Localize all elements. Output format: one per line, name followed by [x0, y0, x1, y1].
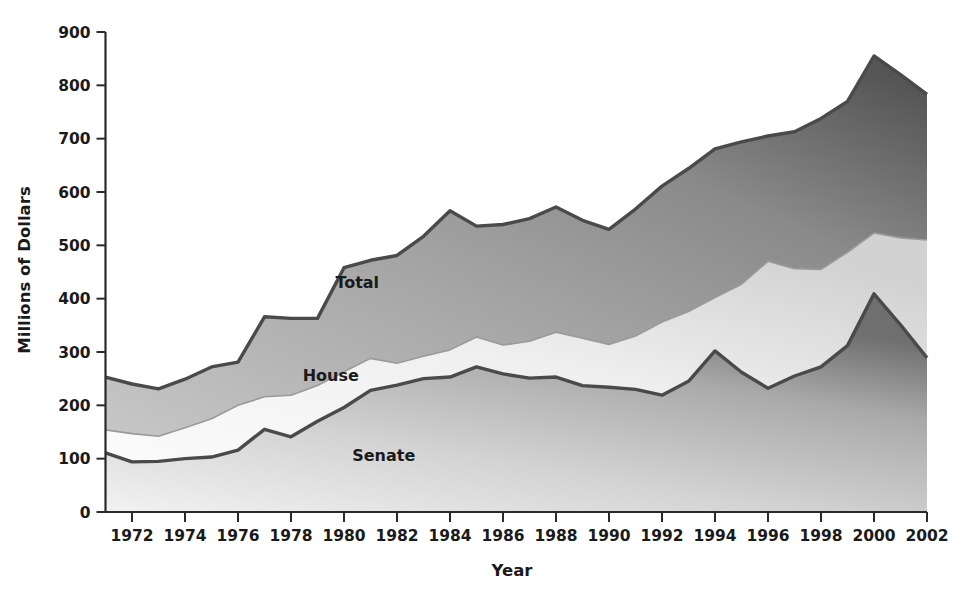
x-tick-label: 1982: [375, 527, 418, 545]
y-tick-label: 300: [58, 344, 91, 362]
y-tick-label: 500: [58, 237, 91, 255]
x-tick-label: 2002: [905, 527, 948, 545]
chart-container: 0100200300400500600700800900197219741976…: [0, 0, 962, 592]
y-tick-label: 0: [80, 504, 91, 522]
x-tick-label: 1978: [269, 527, 312, 545]
x-axis-title: Year: [491, 561, 534, 580]
total-area-label: Total: [335, 273, 379, 292]
x-tick-label: 1986: [481, 527, 524, 545]
house-area-label: House: [303, 366, 359, 385]
y-tick-label: 400: [58, 290, 91, 308]
stacked-areas: [106, 56, 928, 512]
area-chart: 0100200300400500600700800900197219741976…: [0, 0, 962, 592]
x-tick-label: 1988: [534, 527, 577, 545]
y-tick-label: 600: [58, 184, 91, 202]
x-tick-label: 1984: [428, 527, 471, 545]
x-tick-label: 1996: [746, 527, 789, 545]
y-tick-label: 700: [58, 130, 91, 148]
x-tick-label: 1992: [640, 527, 683, 545]
y-tick-label: 100: [58, 450, 91, 468]
y-tick-label: 800: [58, 77, 91, 95]
x-tick-label: 1990: [587, 527, 630, 545]
x-tick-label: 1994: [693, 527, 736, 545]
y-tick-label: 900: [58, 24, 91, 42]
x-tick-label: 1998: [799, 527, 842, 545]
x-tick-label: 1972: [110, 527, 153, 545]
x-tick-label: 1980: [322, 527, 365, 545]
x-tick-label: 1976: [216, 527, 259, 545]
x-tick-label: 1974: [163, 527, 206, 545]
senate-area-label: Senate: [352, 446, 415, 465]
y-axis-title: Millions of Dollars: [15, 186, 34, 354]
x-tick-label: 2000: [852, 527, 895, 545]
y-tick-label: 200: [58, 397, 91, 415]
